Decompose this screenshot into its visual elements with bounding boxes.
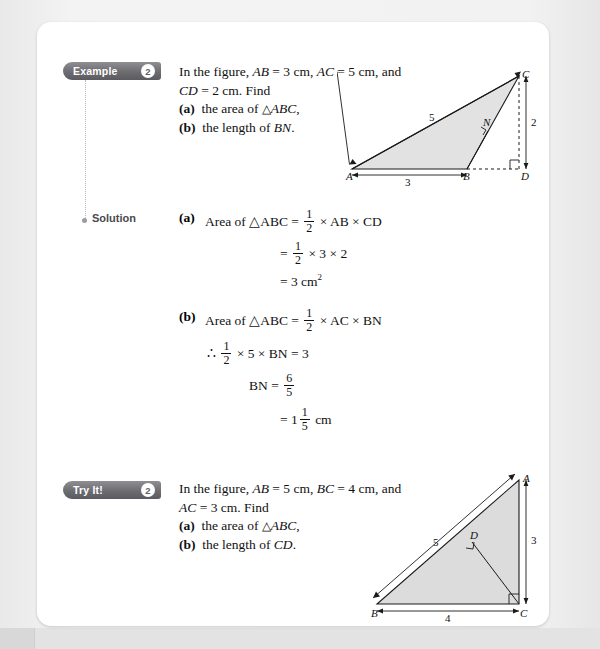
example-figure-length-AC: 5 [429, 111, 435, 123]
solution-b-line2-suffix: × 5 × BN = 3 [237, 346, 309, 361]
solution-a-line-3: = 3 cm2 [280, 268, 322, 291]
solution-b-line1-suffix: × AC × BN [320, 313, 382, 328]
tryit-tab-label: Try It! [73, 484, 141, 496]
solution-bullet [82, 218, 87, 223]
example-question-line-2: CD = 2 cm. Find [179, 81, 270, 100]
solution-a-line1-fraction: 1 2 [304, 208, 314, 234]
solution-b-line2-fraction: 1 2 [221, 340, 231, 366]
example-figure-svg [337, 54, 549, 184]
solution-a-line1-prefix: Area of △ABC = [205, 214, 299, 229]
example-figure-label-B: B [463, 170, 470, 182]
solution-b-line3-fraction: 6 5 [284, 372, 294, 398]
tab-connector-line [85, 80, 87, 220]
solution-a-line1-suffix: × AB × CD [320, 214, 382, 229]
solution-a-line2-fraction: 1 2 [293, 240, 303, 266]
example-figure-length-AB: 3 [405, 176, 411, 188]
solution-a-line2-suffix: × 3 × 2 [308, 246, 347, 261]
therefore-symbol: ∴ [207, 346, 216, 361]
example-item-a: (a) the area of △ABC, [179, 101, 300, 117]
tryit-figure-svg [337, 452, 549, 622]
example-tab: Example 2 [63, 62, 161, 80]
solution-b-line-3: BN = 6 5 [249, 372, 296, 398]
example-figure-label-A: A [346, 170, 353, 182]
tryit-question-line-2: AC = 3 cm. Find [179, 498, 269, 517]
solution-a-line-2: = 1 2 × 3 × 2 [280, 240, 347, 266]
solution-b-line-4: = 1 1 5 cm [280, 406, 332, 432]
tryit-figure-length-AC: 3 [531, 534, 537, 546]
example-figure-length-CD: 2 [531, 116, 537, 128]
solution-a-tag: (a) [179, 210, 195, 226]
solution-b-line-2: ∴ 1 2 × 5 × BN = 3 [207, 340, 309, 366]
example-figure-label-N: N [483, 116, 490, 128]
tryit-tab: Try It! 2 [63, 481, 161, 499]
example-item-b: (b) the length of BN. [179, 120, 295, 136]
tryit-figure-label-B: B [371, 607, 378, 619]
solution-b-line3-prefix: BN = [249, 378, 279, 393]
solution-label: Solution [92, 212, 136, 224]
tryit-item-b: (b) the length of CD. [179, 537, 296, 553]
example-figure-label-C: C [522, 68, 529, 80]
solution-b-tag: (b) [179, 309, 196, 325]
solution-b-line4-prefix: = 1 [280, 412, 298, 427]
example-figure: A B C D N 3 5 2 [337, 54, 549, 184]
tryit-figure: A B C D 5 4 3 [337, 452, 549, 622]
tryit-figure-label-A: A [523, 472, 530, 484]
tryit-figure-length-BC: 4 [445, 612, 451, 624]
example-tab-label: Example [73, 65, 141, 77]
page-bottom-strip [0, 628, 600, 649]
solution-a-line3-text: = 3 cm [280, 274, 318, 289]
solution-b-line1-fraction: 1 2 [304, 307, 314, 333]
solution-a-line-1: Area of △ABC = 1 2 × AB × CD [205, 208, 382, 234]
tryit-figure-label-C: C [520, 607, 527, 619]
example-tab-number: 2 [141, 64, 155, 78]
tryit-figure-length-AB: 5 [433, 536, 439, 548]
tryit-tab-number: 2 [141, 483, 155, 497]
solution-b-line4-suffix: cm [315, 412, 332, 427]
tryit-item-a: (a) the area of △ABC, [179, 518, 300, 534]
tryit-figure-label-D: D [470, 529, 478, 541]
solution-b-line-1: Area of △ABC = 1 2 × AC × BN [205, 307, 382, 333]
solution-b-line1-prefix: Area of △ABC = [205, 313, 299, 328]
worksheet-sheet: Example 2 Solution In the figure, AB = 3… [37, 22, 549, 626]
example-figure-label-D: D [521, 170, 529, 182]
solution-a-line3-sup: 2 [318, 272, 323, 282]
solution-b-line4-fraction: 1 5 [300, 406, 310, 432]
